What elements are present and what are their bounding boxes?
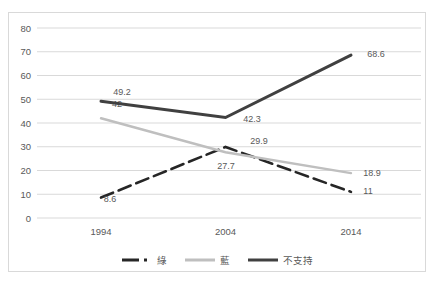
legend-label: 不支持 [283, 253, 313, 267]
legend-label: 綠 [157, 253, 167, 267]
y-axis-tick-label: 30 [20, 141, 31, 152]
y-axis-tick-label: 60 [20, 70, 31, 81]
data-label: 49.2 [113, 87, 131, 97]
chart-canvas: 010203040506070801994200420148.629.91142… [0, 0, 439, 287]
line-chart-plot: 010203040506070801994200420148.629.91142… [0, 0, 439, 287]
legend-item-藍: 藍 [185, 253, 230, 267]
x-axis-tick-label: 2014 [340, 226, 361, 237]
y-axis-tick-label: 0 [26, 213, 31, 224]
data-label: 68.6 [367, 49, 385, 59]
data-label: 27.7 [217, 161, 235, 171]
data-label: 42.3 [243, 114, 261, 124]
data-label: 29.9 [250, 136, 268, 146]
y-axis-tick-label: 80 [20, 23, 31, 34]
legend-item-不支持: 不支持 [248, 253, 313, 267]
data-label: 11 [363, 186, 372, 196]
y-axis-tick-label: 40 [20, 118, 31, 129]
legend-label: 藍 [220, 253, 230, 267]
y-axis-tick-label: 20 [20, 165, 31, 176]
y-axis-tick-label: 70 [20, 46, 31, 57]
legend-marker [185, 257, 215, 263]
y-axis-tick-label: 10 [20, 189, 31, 200]
legend-item-綠: 綠 [122, 253, 167, 267]
series-line-不支持 [101, 55, 351, 117]
data-label: 18.9 [363, 168, 381, 178]
data-label: 8.6 [104, 194, 117, 204]
legend-marker [122, 257, 152, 263]
x-axis-tick-label: 1994 [90, 226, 111, 237]
x-axis-tick-label: 2004 [215, 226, 236, 237]
y-axis-tick-label: 50 [20, 94, 31, 105]
chart-legend: 綠藍不支持 [8, 252, 427, 268]
series-line-綠 [101, 147, 351, 198]
legend-marker [248, 257, 278, 263]
